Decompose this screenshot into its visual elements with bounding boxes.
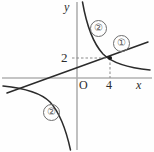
curve-label-2-upper: ② bbox=[90, 20, 107, 37]
intersection-point bbox=[108, 56, 112, 60]
curve-label-1: ① bbox=[113, 35, 130, 52]
graph-canvas bbox=[0, 0, 154, 152]
x-tick-label-4: 4 bbox=[106, 79, 112, 91]
curve-label-2-lower: ② bbox=[43, 104, 60, 121]
y-axis-label: y bbox=[64, 1, 69, 13]
hyperbola-branch-lower bbox=[3, 86, 71, 150]
x-axis-label: x bbox=[136, 79, 141, 91]
origin-label: O bbox=[79, 79, 88, 91]
coordinate-plane-graph: y x O 4 2 ② ① ② bbox=[0, 0, 154, 152]
y-tick-label-2: 2 bbox=[61, 51, 68, 64]
